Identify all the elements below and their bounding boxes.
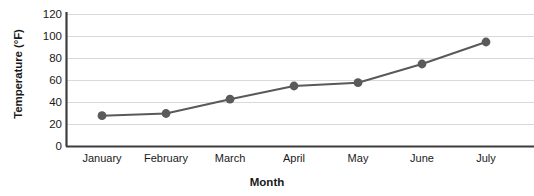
x-tick-june: June — [410, 152, 434, 164]
data-point-february — [162, 109, 171, 118]
x-tick-may: May — [348, 152, 369, 164]
data-point-june — [418, 60, 427, 69]
data-point-april — [290, 82, 299, 91]
x-tick-january: January — [82, 152, 121, 164]
data-point-may — [354, 78, 363, 87]
x-tick-march: March — [215, 152, 246, 164]
gridlines — [67, 15, 534, 125]
x-tick-february: February — [144, 152, 188, 164]
data-point-july — [482, 38, 491, 47]
axis-lines — [66, 12, 534, 147]
plot-area — [0, 0, 534, 196]
data-point-january — [98, 111, 107, 120]
data-point-march — [226, 95, 235, 104]
x-tick-april: April — [283, 152, 305, 164]
x-axis-title: Month — [0, 176, 534, 188]
temperature-line-chart: Temperature (°F) 120 100 80 60 40 20 0 J… — [0, 0, 534, 196]
x-tick-july: July — [476, 152, 496, 164]
data-series-temperature — [98, 38, 491, 121]
